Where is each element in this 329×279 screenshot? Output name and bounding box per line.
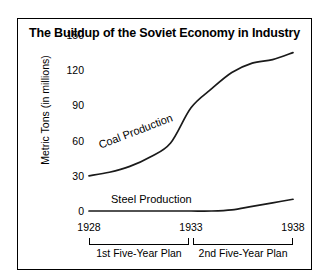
y-tick-label-150: 150 (66, 29, 84, 41)
y-tick-label-90: 90 (72, 99, 84, 111)
y-tick-label-0: 0 (78, 205, 84, 217)
chart-frame: The Buildup of the Soviet Economy in Ind… (17, 18, 312, 270)
y-tick-label-120: 120 (66, 64, 84, 76)
x-tick-label-1938: 1938 (281, 221, 304, 233)
coal-production-line (89, 53, 293, 176)
x-tick-label-1928: 1928 (77, 221, 100, 233)
x-axis-group: 1928 1933 1938 1st Five-Year Plan 2nd Fi… (89, 221, 293, 271)
period-label-first: 1st Five-Year Plan (96, 247, 181, 259)
y-axis-title: Metric Tons (in millions) (39, 35, 51, 185)
period-bracket-second (193, 238, 293, 245)
y-tick-label-30: 30 (72, 170, 84, 182)
plot-area: 150 120 90 60 30 0 Coal Production Steel… (89, 35, 293, 211)
period-bracket-first (89, 238, 189, 245)
x-tick-label-1933: 1933 (179, 221, 202, 233)
series-plot-svg (89, 35, 293, 211)
steel-production-label: Steel Production (111, 193, 192, 205)
y-tick-label-60: 60 (72, 135, 84, 147)
period-label-second: 2nd Five-Year Plan (199, 247, 288, 259)
